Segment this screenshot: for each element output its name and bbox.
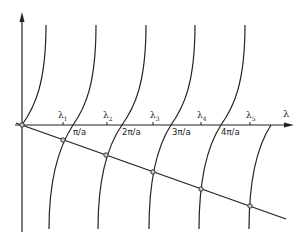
upper-branches (22, 25, 245, 125)
root-label-5: λ5 (246, 111, 256, 122)
root-label-3: λ3 (150, 111, 160, 122)
lower-branches (49, 125, 271, 229)
tick-label-2pi-over-a: 2π/a (122, 128, 141, 137)
x-axis-arrow-icon (284, 123, 294, 128)
y-axis-arrow-icon (20, 12, 25, 22)
diagram-canvas (0, 0, 305, 245)
root-label-2: λ2 (103, 111, 113, 122)
tick-label-pi-over-a: π/a (73, 128, 86, 137)
tick-label-3pi-over-a: 3π/a (172, 128, 191, 137)
tick-label-4pi-over-a: 4π/a (221, 128, 240, 137)
x-axis-label: λ (283, 109, 289, 119)
root-label-4: λ4 (197, 111, 207, 122)
root-label-1: λ1 (58, 111, 68, 122)
